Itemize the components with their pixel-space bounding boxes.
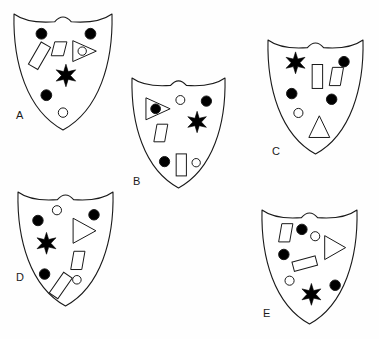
open-circle [311, 232, 320, 241]
open-circle [176, 96, 185, 105]
filled-circle [36, 28, 47, 39]
open-circle [52, 206, 61, 215]
shields-figure: ABCDE [0, 0, 379, 339]
shield-a: A [14, 14, 112, 130]
filled-circle [326, 94, 336, 104]
filled-circle [39, 269, 49, 279]
shield-c: C [268, 40, 363, 157]
filled-circle [279, 249, 289, 259]
filled-circle [159, 156, 169, 166]
triangle-inner-open-circle [78, 47, 86, 55]
open-circle [58, 108, 67, 117]
filled-circle [287, 88, 297, 98]
filled-circle [297, 224, 307, 234]
upright-rectangle [312, 65, 322, 89]
filled-circle [201, 96, 211, 106]
shield-d: D [16, 192, 113, 306]
filled-circle [41, 90, 52, 101]
triangle-inner-filled-circle [151, 104, 161, 114]
shield-label-c: C [272, 145, 280, 157]
open-circle [73, 276, 82, 285]
open-circle [192, 159, 200, 167]
filled-circle [33, 215, 43, 225]
upright-rectangle [176, 154, 186, 176]
shield-outline [18, 192, 113, 306]
open-circle [285, 276, 294, 285]
shield-label-d: D [16, 271, 24, 283]
shield-b: B [132, 78, 225, 188]
filled-circle [330, 280, 340, 290]
filled-circle [85, 28, 96, 39]
open-circle [294, 108, 303, 117]
filled-circle [89, 210, 99, 220]
shield-label-b: B [133, 175, 140, 187]
shield-e: E [262, 210, 357, 324]
shield-label-e: E [263, 307, 270, 319]
shield-label-a: A [16, 109, 24, 121]
filled-circle [339, 56, 349, 66]
